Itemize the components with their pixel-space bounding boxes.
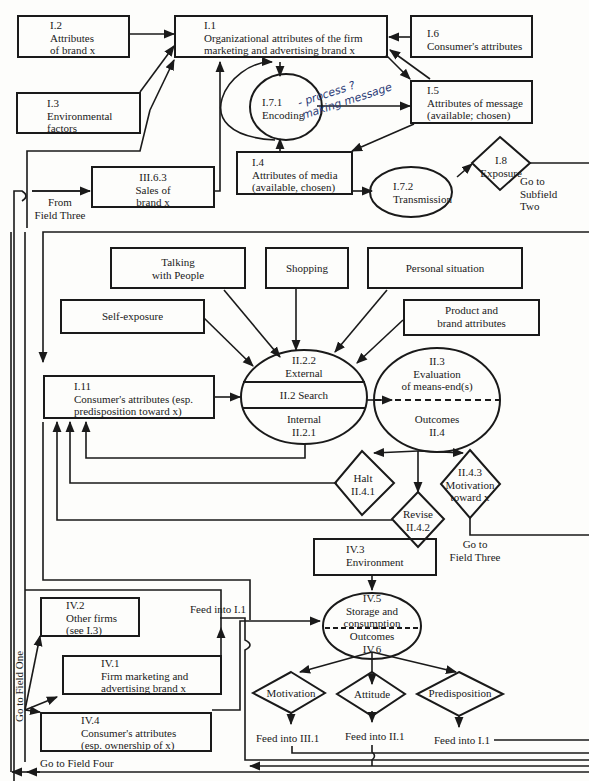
node-i1-label: I.1 Organizational attributes of the fir… [204,19,363,57]
node-text: Encoding [262,109,304,122]
node-i4-label: I.4 Attributes of media (available, chos… [252,156,338,194]
node-text: factors [47,122,112,135]
source-shopping-label: Shopping [265,262,349,275]
node-iv4-label: IV.4 Consumer's attributes (esp. ownersh… [81,714,176,752]
node-text: Attributes of message [427,97,523,110]
node-id: IV.2 [66,599,117,612]
node-text: brand x [91,196,215,209]
node-i6-label: I.6 Consumer's attributes [427,27,522,52]
node-i2-label: I.2 Attributes of brand x [50,19,95,57]
node-id: I.1 [204,19,363,32]
from-field-three-label: From Field Three [30,196,90,221]
search-internal-label: Internal II.2.1 [254,413,354,438]
predisposition-label: Predisposition [420,687,500,700]
node-iv2-label: IV.2 Other firms (see I.3) [66,599,117,637]
storage-label: IV.5 Storage and consumption [322,592,422,630]
node-text: marketing and advertising brand x [204,44,363,57]
node-text: Consumer's attributes [427,40,522,53]
node-i3-label: I.3 Environmental factors [47,97,112,135]
node-id: I.2 [50,19,95,32]
node-i72-label: I.7.2 Transmission [393,180,452,205]
search-middle-label: II.2 Search [254,389,354,402]
node-id: I.5 [427,84,523,97]
node-text: Organizational attributes of the firm [204,32,363,45]
node-id: IV.4 [81,714,176,727]
revise-label: Revise II.4.2 [395,508,441,533]
halt-label: Halt II.4.1 [340,472,386,497]
node-text: Consumer's attributes (esp. [74,393,193,406]
motivation-label: Motivation [256,687,326,700]
node-id: IV.3 [346,543,403,556]
node-text: (see I.3) [66,624,117,637]
feed-into-i1-label: Feed into I.1 [434,734,490,747]
node-text: Firm marketing and [101,670,188,683]
node-text: Environmental [47,110,112,123]
node-id: I.3 [47,97,112,110]
go-to-field-three-label: Go to Field Three [440,538,510,563]
node-text: of brand x [50,44,95,57]
node-text: Exposure [479,167,523,180]
feed-into-ii1-label: Feed into II.1 [345,730,405,743]
evaluation-label: II.3 Evaluation of means-end(s) [377,355,497,393]
node-id: I.6 [427,27,522,40]
search-external-label: II.2.2 External [254,354,354,379]
node-i11-label: I.11 Consumer's attributes (esp. predisp… [74,380,193,418]
evaluation-outcomes-label: Outcomes II.4 [377,413,497,438]
node-i8-label: I.8 Exposure [479,154,523,179]
attitude-label: Attitude [342,688,402,701]
node-text: (available; chosen) [427,109,523,122]
node-text: Transmission [393,193,452,206]
node-iii63-label: III.6.3 Sales of brand x [91,171,215,209]
node-text: advertising brand x [101,682,188,695]
storage-outcomes-label: Outcomes IV.6 [322,630,422,655]
node-text: Environment [346,556,403,569]
feed-into-iii1-label: Feed into III.1 [256,732,319,745]
node-id: I.7.2 [393,180,452,193]
source-personal-label: Personal situation [367,262,523,275]
node-id: III.6.3 [91,171,215,184]
motivation-toward-label: II.4.3 Motivation toward x [440,466,500,504]
go-to-field-one-label: Go to Field One [13,651,25,722]
node-iv1-label: IV.1 Firm marketing and advertising bran… [101,657,188,695]
node-text: Consumer's attributes [81,727,176,740]
node-text: Sales of [91,184,215,197]
node-text: Other firms [66,612,117,625]
go-to-field-four-label: Go to Field Four [40,757,114,770]
node-id: I.4 [252,156,338,169]
node-text: Attributes [50,32,95,45]
source-product-brand-label: Product and brand attributes [403,304,540,329]
node-text: (available, chosen) [252,181,338,194]
node-text: predisposition toward x) [74,405,193,418]
node-text: Attributes of media [252,169,338,182]
feed-into-i1-top-label: Feed into I.1 [190,603,246,616]
node-id: I.8 [479,154,523,167]
node-i5-label: I.5 Attributes of message (available; ch… [427,84,523,122]
node-id: I.11 [74,380,193,393]
go-to-subfield-two-label: Go to Subfield Two [520,175,557,213]
node-text: (esp. ownership of x) [81,739,176,752]
source-self-exposure-label: Self-exposure [60,310,205,323]
source-talking-label: Talking with People [110,256,246,281]
node-iv3-label: IV.3 Environment [346,543,403,568]
node-id: IV.1 [101,657,188,670]
